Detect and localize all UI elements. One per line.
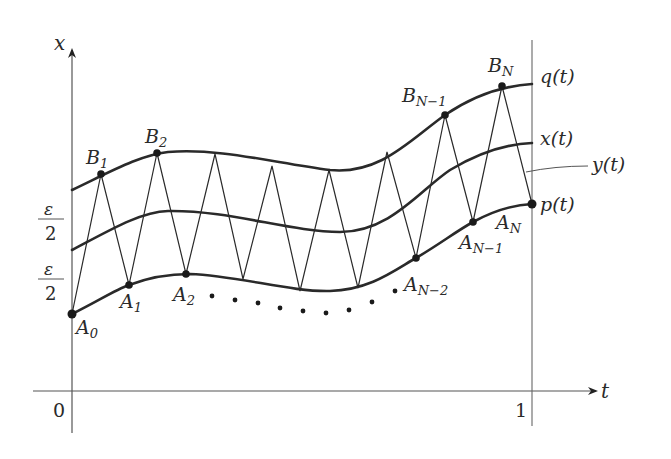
curve-p [72, 204, 532, 314]
x-axis-label: t [601, 379, 610, 403]
label-BN: BN [487, 54, 514, 79]
tick-one: 1 [515, 399, 527, 421]
curve-q [72, 84, 532, 190]
label-y-of-t: y(t) [591, 153, 625, 175]
label-A2: A2 [171, 283, 195, 308]
point-AN-marker [528, 200, 537, 209]
point-B2-marker [153, 149, 161, 157]
point-BN-marker [498, 82, 506, 90]
label-AN1: AN−1 [457, 231, 503, 256]
label-A0: A0 [74, 316, 98, 341]
point-A2-marker [182, 270, 190, 278]
point-AN2-marker [412, 254, 420, 262]
ellipsis-dots [210, 289, 398, 316]
point-A1-marker [125, 281, 133, 289]
point-BN1-marker [441, 111, 449, 119]
point-B1-marker [97, 170, 105, 178]
label-AN2: AN−2 [402, 273, 448, 298]
label-BN1: BN−1 [401, 84, 447, 109]
label-B2: B2 [144, 125, 167, 150]
epsilon-lower-denominator: 2 [45, 283, 56, 304]
tick-zero: 0 [53, 399, 65, 421]
label-x-of-t: x(t) [540, 127, 573, 149]
epsilon-upper-denominator: 2 [45, 223, 56, 244]
curves [72, 84, 532, 314]
label-q-of-t: q(t) [540, 65, 575, 87]
diagram-canvas: x t 0 1 ε 2 ε 2 q(t) x(t) y(t) p(t) A0 A… [0, 0, 671, 459]
label-AN: AN [494, 211, 522, 236]
label-B1: B1 [85, 146, 108, 171]
y-axis-label: x [54, 31, 65, 55]
point-AN1-marker [469, 218, 477, 226]
label-A1: A1 [118, 290, 142, 315]
epsilon-upper-numerator: ε [44, 199, 53, 219]
y-label-leader [526, 166, 588, 172]
axes [33, 40, 596, 433]
label-p-of-t: p(t) [540, 193, 575, 215]
epsilon-lower-numerator: ε [44, 259, 53, 279]
